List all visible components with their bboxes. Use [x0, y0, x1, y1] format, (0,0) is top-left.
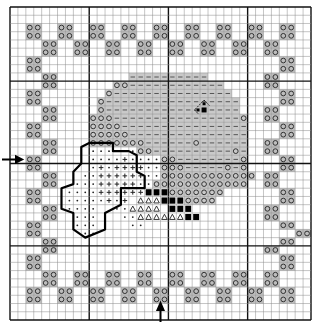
- triangle-cell-symbol: [178, 214, 184, 219]
- dot-cell-symbol: [100, 158, 102, 160]
- dot-cell-symbol: [140, 224, 142, 226]
- triangle-cell-symbol: [162, 214, 168, 219]
- black-square-cell-symbol: [193, 214, 199, 220]
- dot-cell-symbol: [108, 158, 110, 160]
- dot-cell-symbol: [84, 216, 86, 218]
- dot-cell-symbol: [92, 208, 94, 210]
- triangle-cell-symbol: [138, 214, 144, 219]
- flower-outline: [61, 143, 144, 238]
- triangle-cell-symbol: [138, 198, 144, 203]
- plus-cell-symbol: [130, 182, 135, 187]
- dot-cell-symbol: [76, 224, 78, 226]
- plus-cell-symbol: [115, 165, 120, 170]
- plus-cell-symbol: [123, 198, 128, 203]
- dot-cell-symbol: [92, 216, 94, 218]
- plus-cell-symbol: [107, 182, 112, 187]
- dot-cell-symbol: [92, 191, 94, 193]
- dot-cell-symbol: [132, 158, 134, 160]
- black-square-cell-symbol: [177, 197, 183, 203]
- plus-cell-symbol: [138, 165, 143, 170]
- black-square-cell-symbol: [169, 197, 175, 203]
- black-square-cell-symbol: [162, 197, 168, 203]
- dot-cell-symbol: [156, 175, 158, 177]
- dot-cell-symbol: [132, 216, 134, 218]
- dot-cell-symbol: [76, 183, 78, 185]
- dot-cell-symbol: [76, 216, 78, 218]
- plus-cell-symbol: [123, 174, 128, 179]
- triangle-cell-symbol: [154, 214, 160, 219]
- plus-cell-symbol: [130, 190, 135, 195]
- plus-cell-symbol: [123, 157, 128, 162]
- dot-cell-symbol: [92, 150, 94, 152]
- dot-cell-symbol: [108, 150, 110, 152]
- triangle-cell-symbol: [146, 198, 152, 203]
- dot-cell-symbol: [84, 183, 86, 185]
- dot-cell-symbol: [92, 183, 94, 185]
- dot-cell-symbol: [148, 183, 150, 185]
- dot-cell-symbol: [124, 208, 126, 210]
- plus-cell-symbol: [123, 190, 128, 195]
- plus-cell-symbol: [115, 190, 120, 195]
- black-square-cell-symbol: [185, 214, 191, 220]
- black-square-cell-symbol: [162, 189, 168, 195]
- dot-cell-symbol: [84, 175, 86, 177]
- plus-cell-symbol: [99, 174, 104, 179]
- plus-cell-symbol: [107, 174, 112, 179]
- dot-cell-symbol: [108, 167, 110, 169]
- plus-cell-symbol: [115, 174, 120, 179]
- triangle-cell-symbol: [154, 198, 160, 203]
- dot-cell-symbol: [124, 216, 126, 218]
- plus-cell-symbol: [138, 190, 143, 195]
- dot-cell-symbol: [69, 200, 71, 202]
- plus-cell-symbol: [130, 165, 135, 170]
- dot-cell-symbol: [92, 167, 94, 169]
- dot-cell-symbol: [148, 175, 150, 177]
- triangle-cell-symbol: [130, 206, 136, 211]
- dot-cell-symbol: [140, 158, 142, 160]
- triangle-cell-symbol: [138, 206, 144, 211]
- chart-overlay: [0, 0, 319, 326]
- plus-cell-symbol: [99, 165, 104, 170]
- dot-cell-symbol: [132, 224, 134, 226]
- dot-cell-symbol: [69, 208, 71, 210]
- plus-cell-symbol: [99, 182, 104, 187]
- dot-cell-symbol: [76, 191, 78, 193]
- dot-cell-symbol: [100, 200, 102, 202]
- black-square-cell-symbol: [177, 206, 183, 212]
- dot-cell-symbol: [92, 175, 94, 177]
- center-row-arrow-icon: [2, 156, 22, 162]
- plus-cell-symbol: [107, 198, 112, 203]
- dot-cell-symbol: [84, 208, 86, 210]
- dot-cell-symbol: [92, 224, 94, 226]
- black-square-cell-symbol: [146, 189, 152, 195]
- dot-cell-symbol: [84, 200, 86, 202]
- plus-cell-symbol: [123, 165, 128, 170]
- dot-cell-symbol: [100, 150, 102, 152]
- black-square-cell-symbol: [185, 206, 191, 212]
- plus-cell-symbol: [107, 190, 112, 195]
- dot-cell-symbol: [76, 200, 78, 202]
- dot-cell-symbol: [116, 158, 118, 160]
- dot-cell-symbol: [84, 191, 86, 193]
- dot-cell-symbol: [92, 200, 94, 202]
- triangle-cell-symbol: [146, 214, 152, 219]
- dot-cell-symbol: [148, 158, 150, 160]
- plus-cell-symbol: [99, 190, 104, 195]
- dot-cell-symbol: [156, 158, 158, 160]
- center-column-arrow-icon: [158, 303, 164, 322]
- dot-cell-symbol: [69, 191, 71, 193]
- plus-cell-symbol: [130, 174, 135, 179]
- dot-cell-symbol: [84, 224, 86, 226]
- triangle-cell-symbol: [146, 206, 152, 211]
- black-square-cell-symbol: [154, 189, 160, 195]
- plus-cell-symbol: [123, 182, 128, 187]
- dot-cell-symbol: [116, 200, 118, 202]
- plus-cell-symbol: [115, 182, 120, 187]
- triangle-cell-symbol: [154, 206, 160, 211]
- triangle-cell-symbol: [170, 214, 176, 219]
- dot-cell-symbol: [140, 183, 142, 185]
- dot-cell-symbol: [92, 158, 94, 160]
- dot-cell-symbol: [76, 208, 78, 210]
- dot-cell-symbol: [148, 167, 150, 169]
- dot-cell-symbol: [156, 167, 158, 169]
